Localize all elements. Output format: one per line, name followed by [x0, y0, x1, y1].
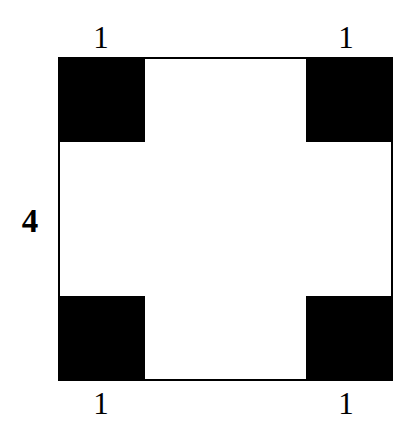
bottom-right-corner-square — [306, 296, 393, 381]
dimension-label-top-left: 1 — [84, 22, 118, 53]
dimension-label-left-side: 4 — [13, 205, 47, 238]
dimension-label-top-right: 1 — [329, 22, 363, 53]
dimension-label-bottom-right: 1 — [329, 388, 363, 419]
figure-canvas: 1 1 4 1 1 — [0, 0, 406, 442]
top-left-corner-square — [58, 57, 145, 142]
dimension-label-bottom-left: 1 — [84, 388, 118, 419]
bottom-left-corner-square — [58, 296, 145, 381]
top-right-corner-square — [306, 57, 393, 142]
